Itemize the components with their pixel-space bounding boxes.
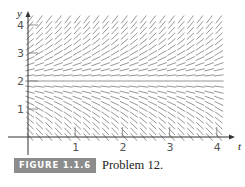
direction-field-chart: ty 12341234 — [0, 0, 245, 155]
slope-segment — [176, 69, 186, 71]
slope-segment — [139, 69, 149, 71]
slope-segment — [204, 75, 214, 76]
slope-segment — [205, 96, 214, 99]
slope-segment — [92, 39, 100, 45]
slope-segment — [196, 51, 204, 56]
slope-segment — [54, 51, 62, 56]
slope-segment — [91, 75, 101, 76]
slope-segment — [177, 39, 185, 45]
slope-segment — [205, 112, 213, 118]
slope-segment — [167, 101, 176, 105]
slope-segment — [110, 69, 120, 71]
slope-segment — [139, 91, 149, 93]
slope-segment — [91, 96, 100, 99]
slope-segment — [54, 107, 62, 112]
slope-segment — [195, 75, 205, 76]
slope-segment — [205, 56, 214, 60]
slope-segment — [101, 75, 111, 76]
slope-segment — [130, 117, 138, 123]
slope-segment — [35, 75, 45, 76]
slope-segment — [129, 91, 139, 93]
slope-segment — [54, 96, 63, 99]
slope-segment — [101, 96, 110, 99]
slope-segment — [110, 96, 119, 99]
slope-segment — [120, 101, 129, 105]
slope-segment — [73, 51, 81, 56]
slope-segment — [129, 101, 138, 105]
slope-segment — [168, 45, 176, 51]
slope-segment — [205, 51, 213, 56]
slope-segment — [73, 39, 81, 45]
slope-segment — [101, 91, 111, 93]
slope-segment — [130, 39, 138, 45]
slope-segment — [148, 91, 158, 93]
slope-segment — [205, 63, 214, 66]
slope-segment — [36, 39, 44, 45]
slope-segment — [63, 63, 72, 66]
slope-segment — [149, 45, 157, 51]
slope-segment — [92, 51, 100, 56]
slope-segment — [120, 69, 130, 71]
slope-segment — [73, 101, 82, 105]
slope-segment — [120, 56, 129, 60]
slope-segment — [140, 39, 148, 45]
slope-segment — [101, 101, 110, 105]
slope-segment — [54, 45, 62, 51]
slope-segment — [45, 117, 53, 123]
slope-segment — [63, 91, 73, 93]
slope-segment — [63, 75, 73, 76]
slope-segment — [73, 56, 82, 60]
x-tick-label: 2 — [119, 141, 126, 154]
slope-segment — [140, 117, 148, 123]
slope-segment — [139, 56, 148, 60]
slope-segment — [120, 107, 128, 112]
slope-segment — [149, 107, 157, 112]
slope-segment — [120, 63, 129, 66]
slope-segment — [110, 63, 119, 66]
slope-segment — [214, 101, 223, 105]
slope-segment — [101, 63, 110, 66]
slope-segment — [54, 91, 64, 93]
slope-segment — [73, 45, 81, 51]
slope-segment — [187, 39, 195, 45]
slope-segment — [64, 117, 72, 123]
slope-segment — [167, 51, 175, 56]
slope-segment — [92, 112, 100, 118]
slope-segment — [176, 63, 185, 66]
slope-segment — [214, 96, 223, 99]
slope-segment — [167, 91, 177, 93]
slope-segment — [111, 39, 119, 45]
slope-segment — [129, 96, 138, 99]
slope-segment — [111, 45, 119, 51]
slope-segment — [195, 91, 205, 93]
y-tick-label: 3 — [17, 47, 24, 60]
figure-badge: FIGURE 1.1.6 — [14, 158, 96, 173]
slope-segment — [129, 63, 138, 66]
slope-segment — [82, 69, 92, 71]
slope-segments — [25, 16, 224, 141]
slope-segment — [72, 86, 82, 87]
slope-segment — [64, 45, 72, 51]
slope-segment — [176, 96, 185, 99]
slope-segment — [129, 86, 139, 87]
x-axis-label: t — [238, 140, 242, 152]
slope-segment — [158, 112, 166, 118]
slope-segment — [168, 39, 176, 45]
slope-segment — [176, 91, 186, 93]
slope-segment — [177, 51, 185, 56]
slope-segment — [215, 117, 223, 123]
slope-segment — [158, 101, 167, 105]
slope-segment — [35, 63, 44, 66]
slope-segment — [82, 51, 90, 56]
slope-segment — [167, 56, 176, 60]
slope-segment — [101, 86, 111, 87]
slope-segment — [195, 101, 204, 105]
slope-segment — [83, 112, 91, 118]
slope-segment — [158, 45, 166, 51]
slope-segment — [91, 69, 101, 71]
slope-segment — [26, 45, 34, 51]
slope-segment — [44, 63, 53, 66]
slope-segment — [186, 91, 196, 93]
slope-segment — [44, 69, 54, 71]
slope-segment — [111, 107, 119, 112]
